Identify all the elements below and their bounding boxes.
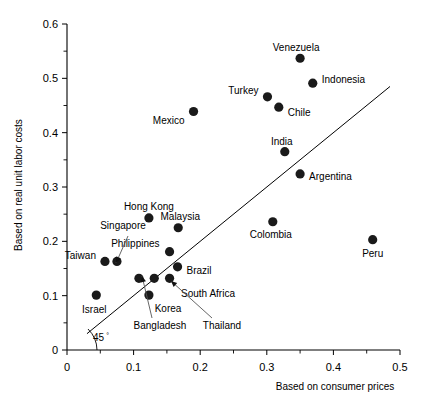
angle-label-45: 45° <box>93 332 109 344</box>
reference-line-45deg: 45° <box>87 86 390 350</box>
y-tick-label: 0.5 <box>43 72 58 84</box>
x-tick-label: 0.4 <box>326 361 341 373</box>
data-point-turkey <box>263 92 272 101</box>
point-label-thailand: Thailand <box>203 320 241 331</box>
x-tick-label: 0.5 <box>392 361 407 373</box>
data-point-brazil <box>173 262 182 271</box>
y-tick-label: 0.6 <box>43 18 58 30</box>
point-label-india: India <box>271 136 293 147</box>
x-tick-label: 0 <box>64 361 70 373</box>
data-point-israel <box>92 291 101 300</box>
point-label-israel: Israel <box>82 304 106 315</box>
point-label-bangladesh: Bangladesh <box>134 320 187 331</box>
y-tick-label: 0.4 <box>43 127 58 139</box>
data-point-south-africa <box>165 274 174 283</box>
point-label-argentina: Argentina <box>309 171 352 182</box>
x-tick-label: 0.3 <box>259 361 274 373</box>
data-point-mexico <box>189 107 198 116</box>
point-label-malaysia: Malaysia <box>160 211 200 222</box>
y-axis-title: Based on real unit labor costs <box>13 119 24 251</box>
x-axis-title: Based on consumer prices <box>276 381 394 392</box>
y-tick-label: 0.3 <box>43 181 58 193</box>
point-label-colombia: Colombia <box>250 229 293 240</box>
data-point-india <box>280 147 289 156</box>
data-point-malaysia <box>174 223 183 232</box>
point-label-brazil: Brazil <box>187 265 212 276</box>
y-tick-label: 0 <box>52 344 58 356</box>
point-label-turkey: Turkey <box>228 85 258 96</box>
data-point-venezuela <box>296 54 305 63</box>
data-points: VenezuelaIndonesiaTurkeyChileMexicoIndia… <box>65 42 383 315</box>
point-label-taiwan: Taiwan <box>65 250 96 261</box>
point-label-peru: Peru <box>362 248 383 259</box>
x-tick-label: 0.1 <box>126 361 141 373</box>
data-point-philippines <box>165 247 174 256</box>
x-tick-label: 0.2 <box>193 361 208 373</box>
data-point-taiwan <box>100 257 109 266</box>
angle-label-value: 45 <box>93 332 105 343</box>
data-point-argentina <box>296 169 305 178</box>
chart-canvas: 00.10.20.30.40.50.600.10.20.30.40.5 45° … <box>0 0 427 413</box>
data-point-peru <box>368 235 377 244</box>
data-point-colombia <box>268 217 277 226</box>
point-label-indonesia: Indonesia <box>322 74 366 85</box>
data-point-indonesia <box>308 79 317 88</box>
point-label-korea: Korea <box>155 303 182 314</box>
scatter-chart: 00.10.20.30.40.50.600.10.20.30.40.5 45° … <box>0 0 427 413</box>
y-tick-label: 0.1 <box>43 290 58 302</box>
point-label-mexico: Mexico <box>153 115 185 126</box>
angle-degree-symbol: ° <box>106 332 109 339</box>
y-tick-label: 0.2 <box>43 235 58 247</box>
point-label-singapore: Singapore <box>100 220 146 231</box>
point-label-venezuela: Venezuela <box>273 42 320 53</box>
data-point-chile <box>274 103 283 112</box>
point-label-philippines: Philippines <box>111 238 159 249</box>
data-point-thailand <box>150 274 159 283</box>
point-label-chile: Chile <box>288 107 311 118</box>
